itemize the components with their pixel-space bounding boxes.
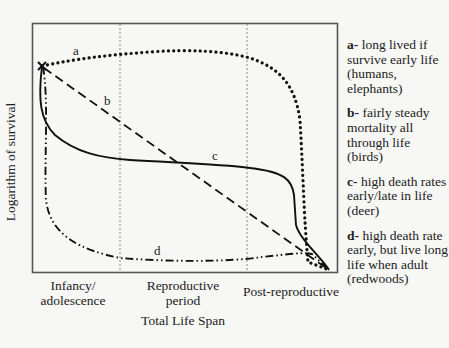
legend: a- long lived if survive early life (hum… — [347, 38, 449, 297]
y-axis-label: Logarithm of survival — [3, 103, 19, 221]
legend-item-c: c- high death rates early/late in life (… — [347, 175, 449, 219]
x-region-reproductive-line1: Reproductive — [138, 279, 228, 294]
x-region-infancy: Infancy/ adolescence — [28, 279, 118, 308]
x-region-infancy-line2: adolescence — [28, 294, 118, 309]
legend-key-c: c- — [347, 174, 358, 189]
x-region-reproductive: Reproductive period — [138, 279, 228, 308]
x-region-reproductive-line2: period — [138, 294, 228, 309]
legend-key-d: d- — [347, 228, 359, 243]
legend-text-d: high death rate early, but live long lif… — [347, 228, 448, 287]
legend-text-a: long lived if survive early life (humans… — [347, 37, 438, 96]
curve-label-b: b — [104, 93, 111, 108]
curve-a — [42, 51, 329, 270]
curve-label-d: d — [154, 243, 161, 258]
legend-item-d: d- high death rate early, but live long … — [347, 229, 449, 287]
curve-label-c: c — [212, 148, 218, 163]
x-region-post-line1: Post-reproductive — [235, 285, 347, 300]
legend-item-a: a- long lived if survive early life (hum… — [347, 38, 449, 96]
legend-text-b: fairly steady mortality all through life… — [347, 105, 430, 164]
x-region-infancy-line1: Infancy/ — [28, 279, 118, 294]
legend-key-a: a- — [347, 37, 358, 52]
curve-label-a: a — [73, 43, 79, 58]
x-region-post-reproductive: Post-reproductive — [235, 285, 347, 300]
legend-item-b: b- fairly steady mortality all through l… — [347, 106, 449, 164]
x-axis-label: Total Life Span — [128, 314, 238, 329]
legend-key-b: b- — [347, 105, 359, 120]
curve-b — [44, 68, 329, 270]
legend-text-c: high death rates early/late in life (dee… — [347, 174, 446, 218]
